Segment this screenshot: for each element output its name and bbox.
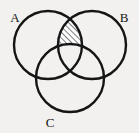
set-label-a: A	[10, 10, 20, 25]
venn-diagram-figure: A B C	[0, 0, 139, 133]
venn-diagram-canvas: A B C	[0, 0, 139, 133]
set-label-c: C	[46, 115, 55, 130]
set-label-b: B	[120, 10, 129, 25]
